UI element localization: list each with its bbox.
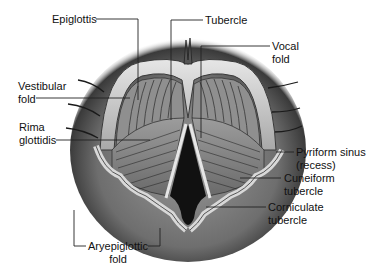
larynx-illustration [0, 0, 376, 273]
label-vestibular-fold: Vestibular fold [18, 80, 66, 105]
label-tubercle: Tubercle [205, 14, 247, 27]
label-corniculate-tubercle: Corniculate tubercle [268, 201, 324, 226]
label-aryepiglottic-fold: Aryepiglottic fold [88, 240, 148, 265]
label-rima-glottidis: Rima glottidis [19, 121, 56, 146]
label-cuneiform-tubercle: Cuneiform tubercle [284, 172, 335, 197]
label-pyriform-sinus: Pyriform sinus (recess) [296, 146, 366, 171]
label-epiglottis: Epiglottis [52, 13, 97, 26]
label-vocal-fold: Vocal fold [272, 40, 299, 65]
